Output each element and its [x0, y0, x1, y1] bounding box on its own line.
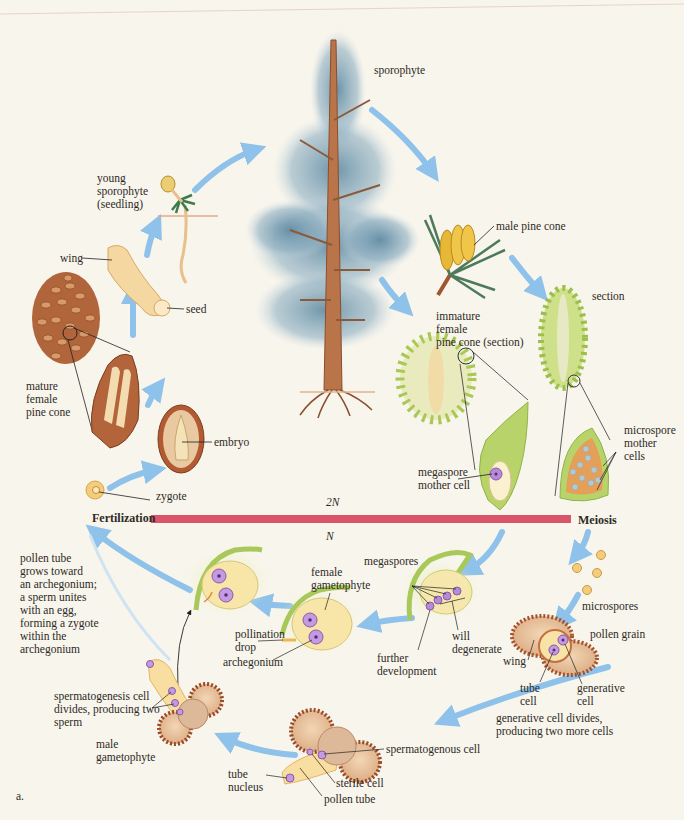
seed-with-embryo [158, 405, 204, 473]
page-edge-line [0, 4, 684, 14]
label-2n: 2N [326, 496, 339, 509]
label-generative-cell: generative cell [577, 682, 625, 708]
label-spermatogenesis: spermatogenesis cell divides, producing … [54, 690, 160, 729]
label-wing-seed: wing [60, 252, 83, 265]
label-mature-female-cone: mature female pine cone [26, 380, 70, 419]
ovule-megaspore-mother-cell [479, 402, 528, 510]
label-megaspores: megaspores [364, 555, 418, 568]
label-meiosis: Meiosis [578, 514, 617, 527]
male-cone-section [541, 288, 585, 388]
label-pollen-grain: pollen grain [590, 628, 645, 641]
label-generative-divides: generative cell divides, producing two m… [496, 712, 613, 738]
label-archegonium: archegonium [223, 656, 283, 669]
female-gametophyte-ovule [278, 587, 358, 656]
fertilization-ovule [186, 548, 270, 616]
label-n: N [326, 530, 334, 543]
label-will-degenerate: will degenerate [452, 630, 502, 656]
cone-scale-with-seeds [91, 354, 139, 448]
pine-life-cycle-diagram: sporophyte male pine cone section immatu… [0, 0, 684, 820]
ploidy-divider-bar [151, 515, 571, 523]
figure-label: a. [16, 790, 24, 803]
label-male-gametophyte: male gametophyte [96, 738, 155, 764]
label-microspores: microspores [582, 600, 638, 613]
mature-female-pine-cone-illustration [32, 272, 100, 364]
label-seed: seed [186, 303, 206, 316]
winged-seed-illustration [108, 245, 170, 316]
label-pollen-tube-description: pollen tube grows toward an archegonium;… [20, 552, 99, 656]
label-wing-pollen: wing [503, 655, 526, 668]
label-pollination-drop: pollination drop [235, 628, 285, 654]
label-tube-nucleus: tube nucleus [228, 768, 263, 794]
label-immature-female-cone: immature female pine cone (section) [436, 310, 524, 349]
label-microspore-mother-cells: microspore mother cells [624, 424, 676, 463]
label-further-development: further development [377, 652, 436, 678]
label-tube-cell: tube cell [520, 682, 540, 708]
label-male-pine-cone: male pine cone [496, 220, 566, 233]
label-female-gametophyte: female gametophyte [311, 566, 370, 592]
label-spermatogenous-cell: spermatogenous cell [386, 743, 480, 756]
seedling-illustration [158, 176, 218, 283]
label-megaspore-mother-cell: megaspore mother cell [418, 466, 470, 492]
label-embryo: embryo [214, 436, 249, 449]
label-zygote: zygote [156, 490, 187, 503]
label-section: section [592, 290, 625, 303]
zygote-illustration [86, 481, 104, 499]
label-fertilization: Fertilization [92, 512, 155, 525]
sporophyte-tree [245, 30, 420, 418]
label-sterile-cell: sterile cell [336, 777, 384, 790]
label-pollen-tube: pollen tube [324, 793, 375, 806]
germinating-pollen-grain [282, 710, 380, 784]
label-young-sporophyte: young sporophyte (seedling) [97, 172, 148, 211]
microsporangium [560, 428, 609, 501]
label-sporophyte: sporophyte [374, 64, 425, 77]
